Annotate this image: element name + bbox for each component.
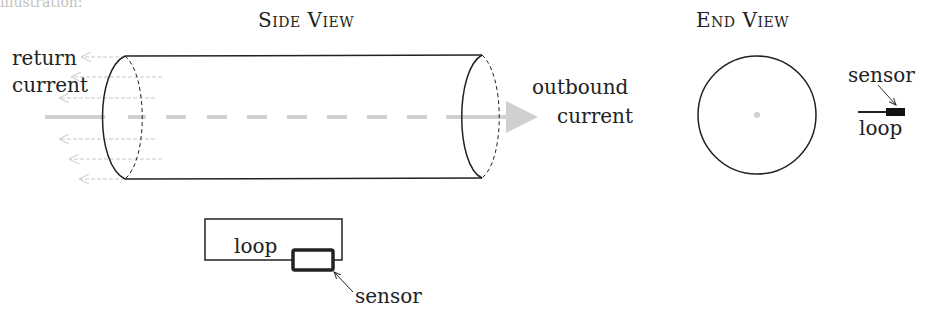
loop-diagram [205, 219, 353, 292]
sensor-label: sensor [355, 284, 422, 308]
end-view-loop-label: loop [859, 116, 902, 140]
end-view-sensor-label: sensor [848, 63, 915, 87]
loop-label: loop [234, 234, 277, 258]
return-current-label-2: current [12, 73, 88, 97]
return-current-label-1: return [12, 46, 77, 70]
diagram-canvas [0, 0, 929, 314]
end-view-circle [698, 56, 816, 174]
end-view-title: End View [696, 8, 789, 32]
end-view-sensor [858, 85, 905, 116]
outbound-current-label-2: current [557, 104, 633, 128]
outbound-current-label-1: outbound [532, 75, 628, 99]
side-view-title: Side View [258, 8, 354, 32]
